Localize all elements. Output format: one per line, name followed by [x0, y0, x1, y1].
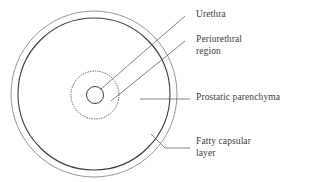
label-fatty-line2: layer — [196, 148, 216, 158]
label-periurethral-region: Periurethral region — [196, 34, 276, 57]
label-fatty-line1: Fatty capsular — [196, 136, 251, 146]
fatty-capsular-layer-circle — [11, 11, 177, 177]
label-prostatic-parenchyma-text: Prostatic parenchyma — [196, 92, 280, 102]
label-fatty-capsular-layer: Fatty capsular layer — [196, 136, 276, 159]
label-prostatic-parenchyma: Prostatic parenchyma — [196, 92, 280, 104]
label-periurethral-line2: region — [196, 46, 221, 56]
label-periurethral-line1: Periurethral — [196, 34, 242, 44]
urethra-circle — [87, 87, 104, 104]
label-urethra: Urethra — [196, 9, 226, 21]
periurethral-region-circle — [71, 71, 119, 119]
prostatic-parenchyma-circle — [18, 18, 170, 170]
label-urethra-text: Urethra — [196, 9, 226, 19]
figure-root: Urethra Periurethral region Prostatic pa… — [0, 0, 311, 182]
